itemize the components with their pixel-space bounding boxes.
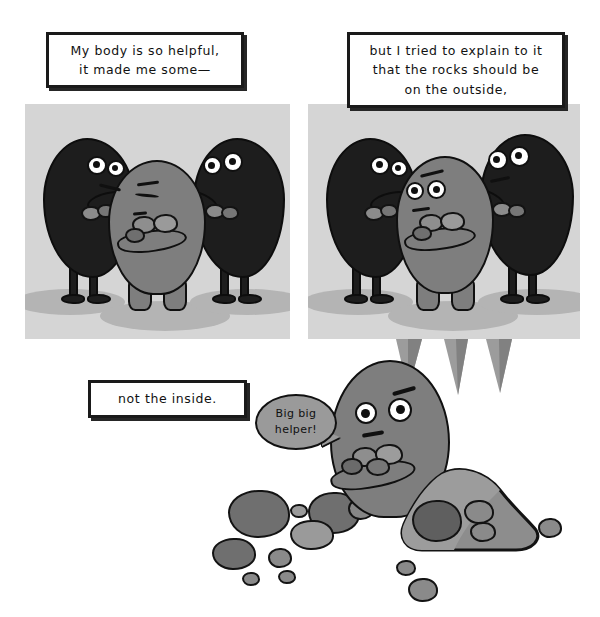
helper-right-foot: [526, 294, 550, 304]
helper-right-pupil: [229, 158, 236, 165]
cradled-rock: [125, 228, 145, 243]
caption-box-2: but I tried to explain to it that the ro…: [347, 32, 565, 108]
ground-rock: [412, 500, 462, 542]
speech-bubble: Big big helper!: [255, 394, 337, 450]
cradled-rock: [412, 226, 432, 241]
helper-left-foot: [87, 294, 111, 304]
helper-right-foot: [500, 294, 524, 304]
ground-rock: [278, 570, 296, 584]
helper-left-foot: [61, 294, 85, 304]
protagonist-pupil: [411, 187, 418, 194]
held-rock: [508, 204, 526, 218]
helper-left-foot: [370, 294, 394, 304]
ground-rock: [396, 560, 416, 576]
ground-rock: [212, 538, 256, 570]
helper-right-foot: [238, 294, 262, 304]
protagonist-pupil: [396, 405, 405, 414]
ground-rock: [268, 548, 292, 568]
caption-text-1: My body is so helpful, it made me some—: [60, 39, 229, 82]
ground-rock: [290, 520, 334, 550]
protagonist-pupil: [433, 186, 440, 193]
helper-right-pupil: [208, 162, 215, 169]
helper-right-foot: [212, 294, 236, 304]
cradled-rock: [341, 458, 363, 475]
ground-rock: [464, 500, 494, 524]
held-rock: [221, 206, 239, 220]
speech-bubble-text: Big big helper!: [275, 406, 317, 438]
helper-left-pupil: [395, 165, 401, 171]
ground-rock: [242, 572, 260, 586]
caption-text-3: not the inside.: [108, 387, 227, 410]
cradled-rock: [153, 214, 178, 233]
helper-left-pupil: [376, 161, 383, 168]
ground-rock: [470, 522, 496, 542]
ground-rock: [538, 518, 562, 538]
helper-right-pupil: [493, 156, 500, 163]
helper-left-foot: [344, 294, 368, 304]
helper-right-pupil: [515, 152, 522, 159]
comic-panel-2: [308, 104, 580, 339]
ground-rock: [228, 490, 290, 538]
ground-rock: [290, 504, 308, 518]
helper-left-pupil: [112, 165, 118, 171]
cradled-rock: [440, 212, 465, 231]
caption-text-2: but I tried to explain to it that the ro…: [359, 39, 552, 101]
ground-rock: [408, 578, 438, 602]
comic-panel-1: [25, 104, 290, 339]
protagonist-pupil: [361, 409, 370, 418]
comic-page: My body is so helpful, it made me some— …: [0, 0, 600, 617]
hanging-spike: [482, 339, 524, 397]
hanging-spike: [438, 339, 480, 399]
caption-box-3: not the inside.: [88, 380, 247, 418]
caption-box-1: My body is so helpful, it made me some—: [46, 32, 244, 88]
helper-left-pupil: [93, 161, 100, 168]
cradled-rock: [366, 458, 390, 476]
